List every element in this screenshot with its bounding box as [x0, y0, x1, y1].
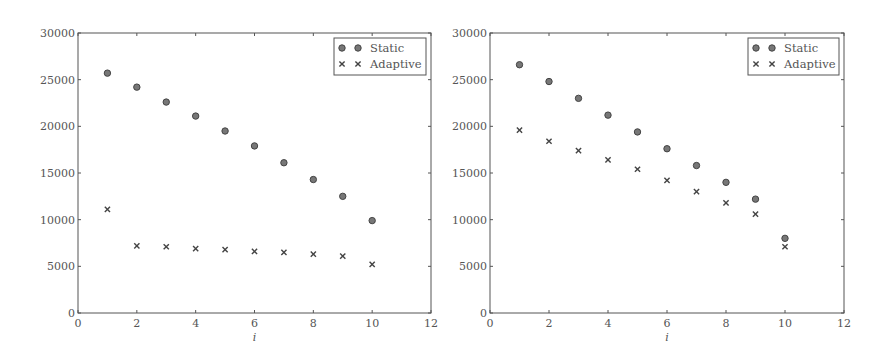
- x-tick-label: 0: [487, 317, 494, 330]
- series-static: [104, 70, 375, 224]
- series-adaptive: [105, 207, 375, 267]
- circle-marker-icon: [163, 99, 169, 105]
- x-tick-label: 0: [75, 317, 82, 330]
- series-static: [516, 62, 788, 242]
- x-marker-icon: [517, 127, 522, 132]
- x-marker-icon: [134, 243, 139, 248]
- circle-marker-icon: [605, 112, 611, 118]
- legend: StaticAdaptive: [334, 38, 426, 75]
- y-tick-label: 0: [480, 307, 487, 320]
- x-marker-icon: [105, 207, 110, 212]
- circle-marker-icon: [575, 95, 581, 101]
- x-marker-icon: [635, 167, 640, 172]
- circle-marker-icon: [222, 128, 228, 134]
- y-tick-label: 20000: [40, 120, 75, 133]
- circle-marker-icon: [752, 196, 758, 202]
- x-marker-icon: [311, 252, 316, 257]
- x-marker-icon: [605, 157, 610, 162]
- x-tick-label: 8: [723, 317, 730, 330]
- circle-marker-icon: [310, 176, 316, 182]
- chart-panel-1: 024681012050001000015000200002500030000i…: [40, 27, 438, 344]
- legend-label-adaptive: Adaptive: [369, 57, 422, 71]
- y-tick-label: 25000: [40, 74, 75, 87]
- x-tick-label: 6: [664, 317, 671, 330]
- x-tick-label: 6: [251, 317, 258, 330]
- circle-marker-icon: [634, 129, 640, 135]
- circle-marker-icon: [782, 235, 788, 241]
- y-tick-label: 5000: [47, 260, 75, 273]
- x-marker-icon: [340, 253, 345, 258]
- x-marker-icon: [753, 211, 758, 216]
- y-tick-label: 5000: [459, 260, 487, 273]
- y-tick-label: 0: [68, 307, 75, 320]
- x-marker-icon: [164, 244, 169, 249]
- x-marker-icon: [281, 250, 286, 255]
- y-tick-label: 20000: [452, 120, 487, 133]
- circle-marker-icon: [664, 146, 670, 152]
- x-tick-label: 12: [837, 317, 851, 330]
- y-tick-label: 10000: [40, 214, 75, 227]
- x-tick-label: 10: [365, 317, 379, 330]
- x-marker-icon: [694, 189, 699, 194]
- legend: StaticAdaptive: [748, 38, 839, 75]
- series-adaptive: [517, 127, 788, 249]
- figure-canvas: 024681012050001000015000200002500030000i…: [0, 0, 890, 349]
- x-tick-label: 2: [133, 317, 140, 330]
- y-tick-label: 30000: [452, 27, 487, 40]
- x-tick-label: 12: [424, 317, 438, 330]
- x-marker-icon: [723, 200, 728, 205]
- x-tick-label: 10: [778, 317, 792, 330]
- circle-marker-icon: [355, 45, 361, 51]
- circle-marker-icon: [546, 78, 552, 84]
- circle-marker-icon: [134, 84, 140, 90]
- circle-marker-icon: [723, 179, 729, 185]
- x-axis-label: i: [253, 331, 257, 344]
- circle-marker-icon: [753, 45, 759, 51]
- x-marker-icon: [576, 148, 581, 153]
- x-marker-icon: [252, 249, 257, 254]
- circle-marker-icon: [340, 193, 346, 199]
- chart-panel-2: 024681012050001000015000200002500030000i…: [452, 27, 851, 344]
- legend-label-static: Static: [370, 41, 404, 55]
- x-tick-label: 4: [192, 317, 199, 330]
- x-axis-label: i: [665, 331, 669, 344]
- x-tick-label: 8: [310, 317, 317, 330]
- x-marker-icon: [546, 139, 551, 144]
- circle-marker-icon: [281, 160, 287, 166]
- circle-marker-icon: [369, 217, 375, 223]
- legend-label-adaptive: Adaptive: [783, 57, 836, 71]
- circle-marker-icon: [251, 143, 257, 149]
- x-tick-label: 4: [605, 317, 612, 330]
- y-tick-label: 15000: [40, 167, 75, 180]
- y-tick-label: 15000: [452, 167, 487, 180]
- y-tick-label: 10000: [452, 214, 487, 227]
- circle-marker-icon: [516, 62, 522, 68]
- circle-marker-icon: [693, 162, 699, 168]
- circle-marker-icon: [339, 45, 345, 51]
- circle-marker-icon: [769, 45, 775, 51]
- x-marker-icon: [193, 246, 198, 251]
- circle-marker-icon: [104, 70, 110, 76]
- y-tick-label: 25000: [452, 74, 487, 87]
- y-tick-label: 30000: [40, 27, 75, 40]
- x-tick-label: 2: [546, 317, 553, 330]
- x-marker-icon: [370, 262, 375, 267]
- x-marker-icon: [222, 247, 227, 252]
- legend-label-static: Static: [784, 41, 818, 55]
- circle-marker-icon: [192, 113, 198, 119]
- x-marker-icon: [664, 178, 669, 183]
- x-marker-icon: [782, 244, 787, 249]
